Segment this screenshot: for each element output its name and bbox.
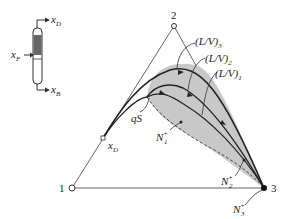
- n1-label: N+1: [156, 131, 168, 146]
- vertex-3-label: 3: [271, 183, 277, 194]
- vertex-1-label: 1: [59, 183, 65, 194]
- diagram-canvas: [0, 0, 287, 219]
- xd-marker: [101, 136, 105, 140]
- lv1-label: (L/V)1: [215, 68, 242, 82]
- feed-label: xF: [11, 49, 20, 63]
- qs-label: qS: [131, 113, 142, 124]
- lv2-label: (L/V)2: [205, 53, 232, 67]
- bottoms-label: xB: [51, 84, 60, 98]
- vertex-2-marker: [172, 24, 177, 29]
- vertex-1-marker: [69, 185, 75, 191]
- n1-marker: [180, 121, 183, 124]
- distillation-column-icon: [24, 18, 50, 93]
- xd-label: xD: [108, 140, 118, 154]
- lv3-label: (L/V)3: [195, 36, 222, 50]
- n2-label: N+2: [221, 175, 233, 190]
- vertex-2-label: 2: [171, 10, 177, 21]
- n2-marker: [243, 159, 246, 162]
- distillate-label: xD: [51, 14, 61, 28]
- n3-label: N+3: [233, 203, 245, 218]
- vertex-3-marker: [261, 185, 267, 191]
